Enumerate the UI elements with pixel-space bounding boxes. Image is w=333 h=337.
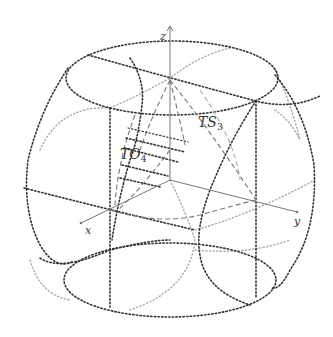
y-axis [170, 180, 297, 212]
x-axis [81, 180, 170, 223]
ts3-label: TS3 [198, 114, 223, 132]
inner-arc-right [199, 101, 256, 305]
y-axis-label: y [293, 215, 301, 228]
y-axis-tip-icon [296, 211, 299, 214]
outer-arc-left [27, 68, 73, 264]
top-diagonal [88, 55, 320, 105]
diagram-canvas: z x y TS3 TO4 [0, 0, 333, 337]
back-arc-left-upper [40, 108, 110, 150]
rounded-cube-diagram: z x y TS3 TO4 [0, 0, 333, 337]
outer-arc-right [272, 75, 315, 288]
x-axis-label: x [85, 224, 92, 237]
coordinate-axes [80, 26, 299, 224]
to4-label: TO4 [120, 146, 147, 164]
bottom-ellipse [64, 243, 276, 317]
x-axis-tip-icon [80, 222, 83, 225]
z-axis-label: z [159, 30, 166, 43]
back-curve-lower-middle [130, 180, 195, 310]
